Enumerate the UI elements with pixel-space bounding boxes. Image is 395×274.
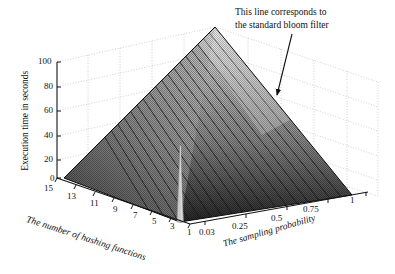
- x-tick-13: 13: [67, 192, 76, 201]
- x-tick-15: 15: [44, 184, 53, 193]
- y-tick-1: 1: [350, 196, 355, 205]
- y-tick-0p03: 0.03: [199, 228, 215, 237]
- x-tick-9: 9: [113, 205, 118, 214]
- figure-3d-surface-plot: 100 80 60 40 20 0 15 13 11 9 7 5 3 1 0.0…: [0, 0, 395, 274]
- annotation-line-1: This line corresponds to: [235, 6, 329, 19]
- annotation-line-2: the standard bloom filter: [235, 19, 329, 32]
- z-tick-100: 100: [38, 57, 52, 66]
- z-axis-ticks: [57, 62, 61, 178]
- z-tick-20: 20: [44, 155, 53, 164]
- z-tick-0: 0: [50, 174, 55, 183]
- x-tick-7: 7: [133, 211, 138, 220]
- z-tick-40: 40: [44, 131, 53, 140]
- y-tick-0p25: 0.25: [232, 222, 248, 231]
- z-axis-title: Execution time in seconds: [21, 51, 31, 191]
- x-tick-3: 3: [170, 222, 175, 231]
- x-tick-11: 11: [90, 199, 99, 208]
- x-tick-1: 1: [187, 228, 192, 237]
- surface-annotation: This line corresponds to the standard bl…: [235, 6, 329, 31]
- z-tick-60: 60: [44, 106, 53, 115]
- z-tick-80: 80: [44, 82, 53, 91]
- x-tick-5: 5: [152, 217, 157, 226]
- annotation-arrow: [277, 34, 292, 95]
